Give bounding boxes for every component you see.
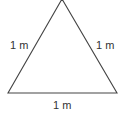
- triangle-diagram: 1 m 1 m 1 m: [0, 0, 121, 113]
- right-side-label: 1 m: [96, 39, 114, 51]
- left-side-label: 1 m: [10, 39, 28, 51]
- bottom-side-label: 1 m: [53, 99, 71, 111]
